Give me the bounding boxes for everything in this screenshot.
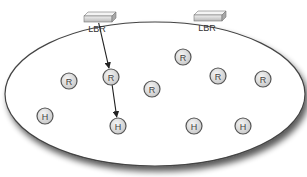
node-label: H — [115, 122, 122, 132]
node-label: R — [66, 77, 73, 87]
router-node-r6: R — [255, 71, 271, 87]
router-box-top-icon — [84, 12, 116, 16]
node-label: R — [215, 72, 222, 82]
node-label: R — [260, 75, 267, 85]
host-node-h4: H — [235, 118, 251, 134]
router-node-r5: R — [210, 68, 226, 84]
node-label: R — [108, 73, 115, 83]
lbr-label: LBR — [88, 24, 106, 34]
node-label: H — [240, 122, 247, 132]
router-node-r3: R — [144, 81, 160, 97]
lbr-label: LBR — [198, 23, 216, 33]
node-label: H — [42, 112, 49, 122]
host-node-h3: H — [186, 118, 202, 134]
node-label: R — [180, 53, 187, 63]
host-node-h2: H — [110, 118, 126, 134]
network-diagram: RRRRRRHHHH LBRLBR — [0, 0, 307, 177]
router-node-r1: R — [61, 73, 77, 89]
router-box-top-icon — [194, 11, 226, 15]
router-box-front-icon — [84, 16, 112, 22]
diagram-canvas: RRRRRRHHHH LBRLBR — [0, 0, 307, 177]
host-node-h1: H — [37, 108, 53, 124]
router-node-r4: R — [175, 49, 191, 65]
router-node-r2: R — [103, 69, 119, 85]
node-label: H — [191, 122, 198, 132]
router-box-front-icon — [194, 15, 222, 21]
node-label: R — [149, 85, 156, 95]
